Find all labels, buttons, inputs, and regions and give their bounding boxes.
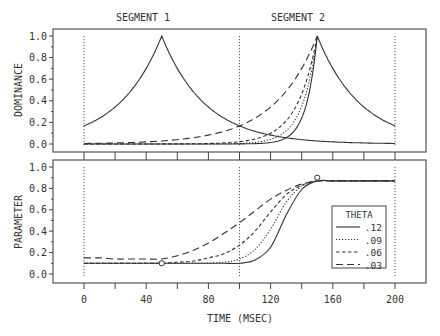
theta-legend: THETA .12.09.06.03 (332, 206, 386, 271)
svg-text:0.6: 0.6 (29, 74, 47, 85)
time-tick-strip (84, 152, 395, 160)
svg-text:0.0: 0.0 (29, 269, 47, 280)
parameter-y-axis: 0.00.20.40.60.81.0 (29, 162, 53, 280)
svg-text:0.8: 0.8 (29, 183, 47, 194)
svg-text:0.2: 0.2 (29, 247, 47, 258)
legend-label: .06 (365, 247, 382, 258)
segment-1-label: SEGMENT 1 (116, 12, 170, 23)
figure: SEGMENT 1 SEGMENT 2 0.00.20.40.60.81.0 0… (0, 0, 440, 336)
segment-2-label: SEGMENT 2 (271, 12, 325, 23)
time-x-axis: 04080120160200 (81, 283, 404, 305)
svg-text:0: 0 (81, 294, 87, 305)
legend-label: .12 (365, 222, 382, 233)
target-marker (315, 175, 320, 180)
svg-text:40: 40 (140, 294, 152, 305)
dominance-y-axis: 0.00.20.40.60.81.0 (29, 31, 53, 150)
legend-label: .03 (365, 260, 382, 271)
svg-text:0.4: 0.4 (29, 95, 47, 106)
svg-text:200: 200 (386, 294, 404, 305)
parameter-axis-label: PARAMETER (13, 194, 24, 249)
svg-text:0.2: 0.2 (29, 117, 47, 128)
legend-title: THETA (345, 210, 373, 220)
segment-2-dominance-curve-.06 (84, 36, 317, 144)
target-marker (159, 261, 164, 266)
segment-2-dominance-curve-.12 (84, 36, 317, 144)
segment-2-dominance-decay (317, 36, 395, 126)
segment-2-dominance-curve-.03 (84, 36, 317, 144)
svg-text:1.0: 1.0 (29, 162, 47, 173)
svg-text:80: 80 (202, 294, 214, 305)
svg-text:0.6: 0.6 (29, 204, 47, 215)
dominance-axis-label: DOMINANCE (13, 63, 24, 117)
segment-2-dominance-curve-.09 (84, 36, 317, 144)
svg-text:0.4: 0.4 (29, 226, 47, 237)
svg-text:0.8: 0.8 (29, 52, 47, 63)
legend-label: .09 (365, 235, 382, 246)
svg-text:120: 120 (262, 294, 280, 305)
svg-text:1.0: 1.0 (29, 31, 47, 42)
svg-text:160: 160 (324, 294, 342, 305)
time-axis-label: TIME (MSEC) (207, 313, 273, 324)
svg-text:0.0: 0.0 (29, 139, 47, 150)
